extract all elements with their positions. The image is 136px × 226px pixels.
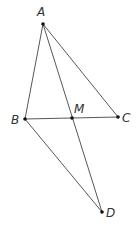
label-m: M	[74, 102, 85, 116]
point-d	[100, 210, 104, 214]
label-d: D	[106, 206, 115, 220]
label-b: B	[11, 113, 19, 127]
point-b	[23, 117, 27, 121]
geometry-diagram: ABMCD	[0, 0, 136, 226]
label-c: C	[122, 111, 131, 125]
point-c	[116, 115, 120, 119]
segment-ab	[25, 24, 43, 119]
point-m	[70, 116, 74, 120]
point-a	[41, 22, 45, 26]
segment-bd	[25, 119, 102, 212]
label-a: A	[36, 5, 45, 19]
